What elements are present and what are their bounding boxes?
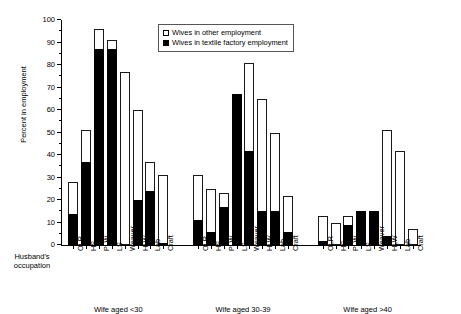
y-axis-tick xyxy=(59,53,62,54)
bar-segment-textile-employment xyxy=(94,49,104,245)
x-axis-label-ls: LS xyxy=(240,242,249,251)
x-axis-label-ls: LS xyxy=(364,242,373,251)
y-axis-tick xyxy=(59,75,62,76)
x-axis-caption: Husband's occupation xyxy=(6,252,58,270)
y-axis-tick-label: 50 xyxy=(31,129,55,137)
bar-hlw xyxy=(257,99,267,245)
x-axis-tick xyxy=(224,245,225,249)
bar-segment-textile-employment xyxy=(107,49,117,245)
x-axis-label-weaver: Weaver xyxy=(252,226,261,251)
bar-segment-other-employment xyxy=(395,151,405,246)
y-axis-tick-label: 70 xyxy=(31,84,55,92)
x-axis-tick xyxy=(387,245,388,249)
x-axis-label-craft: Craft xyxy=(416,235,425,251)
y-axis-tick xyxy=(57,154,61,155)
plot-area xyxy=(61,20,421,245)
legend-label-textile: Wives in textile factory employment xyxy=(172,38,288,48)
x-axis-tick xyxy=(400,245,401,249)
x-axis-label-plw: PLW xyxy=(102,236,111,251)
y-axis-tick-label: 90 xyxy=(31,39,55,47)
y-axis-tick-label: 20 xyxy=(31,196,55,204)
bar-lab xyxy=(270,133,280,246)
x-axis-tick xyxy=(198,245,199,249)
legend-item-other: Wives in other employment xyxy=(163,28,288,38)
x-axis-label-craft: Craft xyxy=(291,235,300,251)
bar-ls xyxy=(232,94,242,245)
x-axis-label-ls: LS xyxy=(115,242,124,251)
legend-item-textile: Wives in textile factory employment xyxy=(163,38,288,48)
x-axis-tick xyxy=(150,245,151,249)
x-axis-caption-line2: occupation xyxy=(6,261,58,270)
bar-weaver xyxy=(244,63,254,245)
chart-legend: Wives in other employment Wives in texti… xyxy=(158,24,294,52)
x-axis-label-olr: OLR xyxy=(326,236,335,251)
x-axis-label-hlw: HLW xyxy=(390,235,399,251)
legend-label-other: Wives in other employment xyxy=(172,28,261,38)
bar-segment-other-employment xyxy=(120,72,130,245)
x-axis-tick xyxy=(138,245,139,249)
y-axis-tick xyxy=(59,188,62,189)
bar-olr xyxy=(193,175,203,245)
filled-square-icon xyxy=(163,40,169,46)
x-axis-label-hs: HS xyxy=(214,241,223,251)
y-axis-tick-label: 100 xyxy=(31,16,55,24)
x-axis-tick xyxy=(275,245,276,249)
y-axis-tick xyxy=(59,233,62,234)
x-axis-tick xyxy=(211,245,212,249)
bar-hlw xyxy=(133,110,143,245)
y-axis-tick xyxy=(59,165,62,166)
x-axis-label-hlw: HLW xyxy=(141,235,150,251)
y-axis-tick xyxy=(59,30,62,31)
x-axis-label-lab: Lab xyxy=(153,239,162,251)
y-axis-tick xyxy=(57,199,61,200)
x-axis-label-olr: OLR xyxy=(76,236,85,251)
x-axis-tick xyxy=(348,245,349,249)
y-axis-tick xyxy=(57,19,61,20)
y-axis-line xyxy=(61,20,62,245)
x-axis-tick xyxy=(288,245,289,249)
x-axis-label-lab: Lab xyxy=(278,239,287,251)
y-axis-tick xyxy=(57,42,61,43)
x-axis-label-hs: HS xyxy=(89,241,98,251)
x-axis-label-hlw: HLW xyxy=(265,235,274,251)
x-axis-tick xyxy=(374,245,375,249)
bar-ls xyxy=(107,40,117,245)
x-axis-label-olr: OLR xyxy=(201,236,210,251)
x-axis-label-weaver: Weaver xyxy=(377,226,386,251)
x-axis-tick xyxy=(262,245,263,249)
y-axis-title: Percent in employment xyxy=(19,20,28,190)
bar-plw xyxy=(94,29,104,245)
y-axis-tick-label: 40 xyxy=(31,151,55,159)
open-square-icon xyxy=(163,30,169,36)
y-axis-tick xyxy=(59,210,62,211)
x-axis-label-weaver: Weaver xyxy=(128,226,137,251)
bar-weaver xyxy=(120,72,130,245)
x-axis-tick xyxy=(163,245,164,249)
bar-hs xyxy=(81,130,91,245)
y-axis-tick xyxy=(59,143,62,144)
y-axis-tick xyxy=(57,87,61,88)
y-axis-tick xyxy=(59,120,62,121)
x-axis-tick xyxy=(125,245,126,249)
y-axis-tick xyxy=(59,98,62,99)
x-axis-tick xyxy=(336,245,337,249)
x-axis-tick xyxy=(112,245,113,249)
y-axis-tick-label: 10 xyxy=(31,219,55,227)
x-axis-caption-line1: Husband's xyxy=(6,252,58,261)
x-axis-tick xyxy=(73,245,74,249)
y-axis-tick xyxy=(57,222,61,223)
group-label: Wife aged 30-39 xyxy=(192,305,295,314)
group-label: Wife aged <30 xyxy=(67,305,170,314)
x-axis-label-plw: PLW xyxy=(227,236,236,251)
bar-segment-textile-employment xyxy=(81,162,91,245)
x-axis-tick xyxy=(249,245,250,249)
x-axis-label-craft: Craft xyxy=(166,235,175,251)
x-axis-label-lab: Lab xyxy=(403,239,412,251)
x-axis-tick xyxy=(323,245,324,249)
x-axis-tick xyxy=(99,245,100,249)
x-axis-tick xyxy=(237,245,238,249)
bar-lab xyxy=(395,151,405,246)
x-axis-tick xyxy=(86,245,87,249)
y-axis-tick xyxy=(57,177,61,178)
